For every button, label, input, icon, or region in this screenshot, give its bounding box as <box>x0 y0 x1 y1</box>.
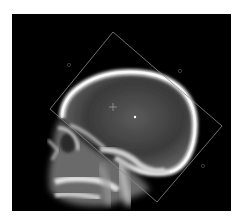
roi-handle-icon[interactable] <box>178 69 181 72</box>
xray-canvas <box>12 14 231 211</box>
xray-viewer[interactable] <box>12 14 231 211</box>
center-point-icon[interactable] <box>134 116 136 118</box>
roi-handle-icon[interactable] <box>201 164 204 167</box>
skull-image <box>48 72 195 206</box>
roi-handle-icon[interactable] <box>67 63 70 66</box>
